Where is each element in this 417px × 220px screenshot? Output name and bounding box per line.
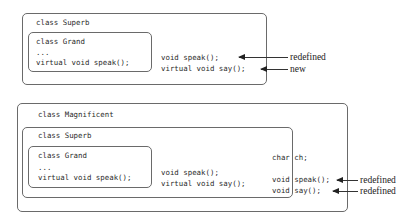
annotation-redefined-3: redefined: [360, 186, 396, 196]
superb-title: class Superb: [36, 18, 89, 27]
grand-title-nested: class Grand: [38, 151, 87, 160]
superb-method-say: virtual void say();: [161, 64, 246, 73]
annotation-new: new: [290, 64, 306, 74]
arrow-new: [261, 69, 288, 70]
arrow-redefined-2: [337, 180, 358, 181]
grand-ellipsis: ...: [36, 48, 49, 57]
grand-title: class Grand: [36, 37, 85, 46]
grand-method-nested: virtual void speak();: [38, 173, 131, 182]
magnificent-title: class Magnificent: [38, 110, 114, 119]
annotation-redefined-1: redefined: [290, 52, 326, 62]
grand-method: virtual void speak();: [36, 58, 129, 67]
superb-method-speak-nested: void speak();: [161, 168, 219, 177]
magnificent-member-ch: char ch;: [272, 153, 308, 162]
magnificent-method-speak: void speak();: [272, 175, 330, 184]
arrow-redefined-1: [239, 57, 288, 58]
superb-title-nested: class Superb: [38, 131, 91, 140]
annotation-redefined-2: redefined: [360, 175, 396, 185]
arrow-redefined-3: [333, 191, 358, 192]
superb-method-speak: void speak();: [161, 53, 219, 62]
superb-method-say-nested: virtual void say();: [161, 179, 246, 188]
grand-ellipsis-nested: ...: [38, 163, 51, 172]
magnificent-method-say: void say();: [272, 186, 321, 195]
